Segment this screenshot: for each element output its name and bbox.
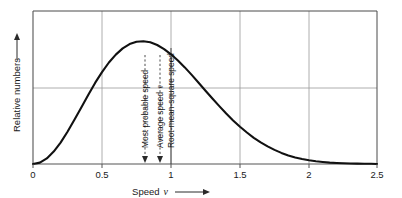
y-axis-title-arrowhead xyxy=(14,33,20,40)
plot-background xyxy=(33,11,377,164)
tick-label-1.5: 1.5 xyxy=(233,169,246,180)
speed-distribution-figure: Most probable speed Average speedv̄ Root… xyxy=(0,0,402,198)
annotation-label-average-speed: Average speedv̄ xyxy=(155,84,165,148)
x-axis-title: Speedv xyxy=(132,186,168,197)
y-axis-title: Relative numbers xyxy=(11,58,22,132)
tick-label-2: 2 xyxy=(306,169,311,180)
y-axis-title-group: Relative numbers xyxy=(11,33,22,132)
x-axis-title-group: Speedv xyxy=(132,186,210,197)
x-axis-tick-labels: 0 0.5 1 1.5 2 2.5 xyxy=(30,169,383,180)
tick-label-0: 0 xyxy=(30,169,35,180)
chart-canvas: Most probable speed Average speedv̄ Root… xyxy=(0,0,402,198)
tick-label-0.5: 0.5 xyxy=(95,169,108,180)
tick-label-1: 1 xyxy=(168,169,173,180)
x-axis-tick-marks xyxy=(33,164,377,168)
annotation-label-root-mean-square-speed: Root-mean-square speed xyxy=(166,53,176,148)
x-axis-title-arrowhead xyxy=(203,189,210,195)
annotation-label-average-speed-group: Average speedv̄ xyxy=(155,84,165,148)
annotation-label-most-probable-speed: Most probable speed xyxy=(140,69,150,148)
tick-label-2.5: 2.5 xyxy=(370,169,383,180)
